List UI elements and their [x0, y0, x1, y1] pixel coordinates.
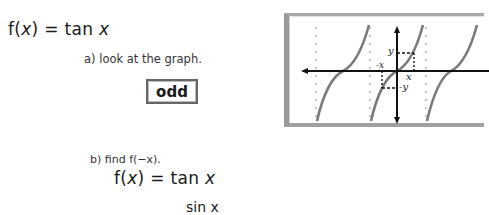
- function-arg: x: [99, 19, 109, 39]
- part-b-line1: f(x) = tan x: [114, 168, 215, 188]
- part-b-arg: x: [205, 168, 215, 188]
- label-neg-x: -x: [376, 60, 384, 70]
- part-a-prompt: a) look at the graph.: [84, 52, 202, 66]
- label-neg-y: -y: [399, 81, 408, 92]
- tangent-graph: y -x x -y: [284, 13, 484, 127]
- y-axis-arrow-top: [394, 26, 400, 33]
- x-axis-arrow-left: [301, 68, 308, 74]
- part-b-line2-partial: sin x: [186, 199, 219, 215]
- part-b-prompt: b) find f(−x).: [90, 153, 161, 166]
- part-a-answer-box: odd: [146, 79, 198, 104]
- function-lhs: f(: [8, 19, 21, 39]
- label-y: y: [388, 45, 394, 56]
- function-definition: f(x) = tan x: [8, 19, 109, 39]
- tangent-graph-svg: [289, 16, 489, 130]
- function-var: x: [21, 19, 31, 39]
- function-rhs: ) = tan: [32, 19, 99, 39]
- part-b-lhs: f(: [114, 168, 127, 188]
- part-b-var: x: [127, 168, 137, 188]
- y-axis-arrow-bottom: [394, 117, 400, 124]
- part-b-rhs: ) = tan: [138, 168, 205, 188]
